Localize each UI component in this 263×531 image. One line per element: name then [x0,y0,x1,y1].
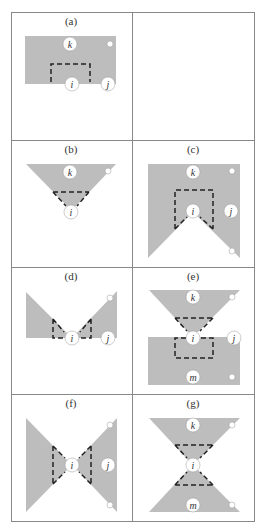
small-node [229,374,235,380]
small-node [107,422,113,428]
panel-c: k i j [148,164,240,258]
small-node [229,248,235,254]
node-i-label: i [70,207,73,218]
small-node [229,294,235,300]
small-node [229,422,235,428]
node-i-label: i [192,460,195,471]
node-i-label: i [192,333,195,344]
panel-f: i j [26,418,117,512]
small-node [229,502,235,508]
panel-g: k i m [149,418,240,512]
small-node [107,502,113,508]
node-i-label: i [71,79,74,90]
node-k-label: k [191,420,196,431]
panel-label-b: (b) [65,143,78,156]
panel-label-g: (g) [187,397,200,410]
panel-label-c: (c) [187,143,200,156]
small-node [229,168,235,174]
small-node [107,295,113,301]
node-i-label: i [71,333,74,344]
small-node [107,41,113,47]
node-i-label: i [71,460,74,471]
shaded-region [26,418,67,512]
node-k-label: k [68,39,73,50]
node-k-label: k [68,167,73,178]
node-i-label: i [192,206,195,217]
panel-b: k i [26,164,116,219]
panel-label-d: (d) [65,270,78,283]
panel-e: k i j m [148,290,241,385]
node-m-label: m [189,372,196,383]
shaded-region [26,292,72,338]
panel-label-f: (f) [66,397,77,410]
panel-a: k i j [25,36,116,91]
node-k-label: k [191,167,196,178]
node-m-label: m [189,500,196,511]
small-node [105,168,111,174]
diagram-figure: (a) (b) (c) (d) (e) (f) (g) k i j k i k … [0,0,263,531]
node-k-label: k [191,292,196,303]
panel-label-e: (e) [187,270,200,283]
panel-label-a: (a) [65,15,78,28]
panel-d: i j [26,291,117,345]
